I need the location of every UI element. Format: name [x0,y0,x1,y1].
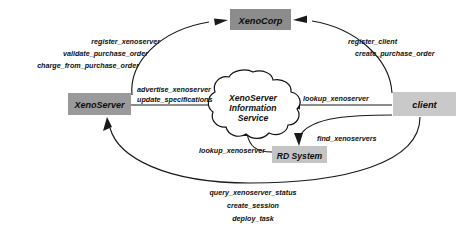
edge-label-register-client: register_client [348,37,398,46]
information-service-label-line-2: Information [229,103,276,113]
edge-label-lookup-xenoserver-rd: lookup_xenoserver [199,146,266,155]
edge-label-advertise-xenoserver: advertise_xenoserver [137,85,212,94]
edge-label-lookup-xenoserver-client: lookup_xenoserver [303,94,370,103]
information-service-label-line-3: Service [238,113,269,123]
edge-label-group-client-to-xenocorp: register_client create_purchase_order [348,37,436,58]
arrowhead-into-xenocorp-right [293,16,307,24]
node-rd-system[interactable]: RD System [272,146,327,163]
node-xenoserver[interactable]: XenoServer [68,93,131,115]
edge-client-to-rd-system-line [300,115,392,136]
xenocorp-label: XenoCorp [238,16,283,26]
edge-label-group-client-to-xenoserver: query_xenoserver_status create_session d… [209,188,296,223]
edge-label-group-client-to-rd-system: find_xenoservers [317,134,377,143]
client-label: client [412,99,437,110]
arrowhead-into-rd-system [294,133,303,146]
diagram-canvas: XenoServer Information Service XenoCorp … [0,0,476,228]
edge-label-validate-purchase-order: validate_purchase_order [63,49,149,58]
edge-label-group-rd-system-to-service: lookup_xenoserver [199,146,266,155]
edge-label-create-session: create_session [227,201,280,210]
node-information-service[interactable]: XenoServer Information Service [208,70,300,138]
node-client[interactable]: client [393,92,456,116]
edge-label-group-client-to-service: lookup_xenoserver [303,94,370,103]
edge-label-register-xenoserver: register_xenoserver [91,37,161,46]
architecture-diagram: XenoServer Information Service XenoCorp … [0,0,476,228]
edge-label-group-xenoserver-to-service: advertise_xenoserver update_specificatio… [137,85,213,104]
edge-label-deploy-task: deploy_task [232,214,275,223]
edge-label-create-purchase-order: create_purchase_order [355,49,436,58]
rd-system-label: RD System [277,151,323,161]
information-service-label-line-1: XenoServer [228,93,277,103]
node-xenocorp[interactable]: XenoCorp [230,9,291,30]
edge-label-update-specifications: update_specifications [137,95,213,104]
edge-label-query-xenoserver-status: query_xenoserver_status [209,188,296,197]
arrowhead-into-xenocorp-left [214,19,228,26]
edge-label-charge-from-purchase-order: charge_from_purchase_order [37,61,140,70]
xenoserver-label: XenoServer [73,100,125,110]
edge-label-group-xenoserver-to-xenocorp: register_xenoserver validate_purchase_or… [37,37,161,70]
edge-label-find-xenoservers: find_xenoservers [317,134,377,143]
